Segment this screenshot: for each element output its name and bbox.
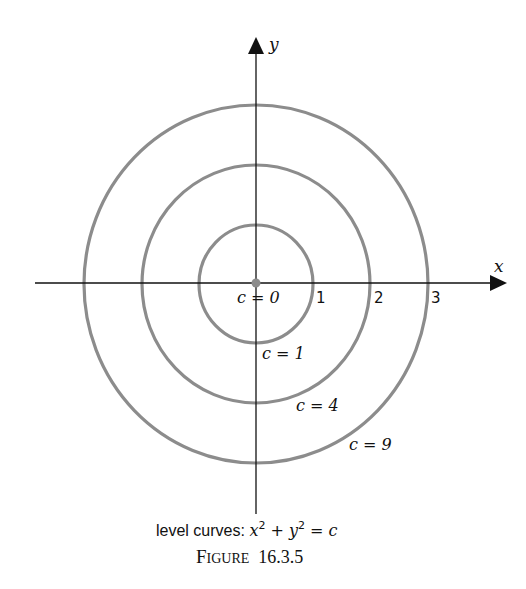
x-tick-3: 3 bbox=[431, 289, 441, 307]
subtitle-y-exponent: 2 bbox=[298, 519, 305, 532]
y-axis-label: y bbox=[268, 34, 279, 54]
subtitle-plus: + bbox=[265, 521, 289, 540]
subtitle-prefix: level curves: bbox=[156, 522, 249, 539]
figure-subtitle: level curves: x2 + y2 = c bbox=[156, 519, 338, 540]
axes bbox=[35, 37, 507, 514]
subtitle-x: x bbox=[249, 521, 258, 540]
subtitle-equals: = bbox=[305, 521, 329, 540]
subtitle-c: c bbox=[329, 521, 338, 540]
curve-label-c4: c = 4 bbox=[296, 396, 339, 415]
caption-initial: F bbox=[196, 546, 207, 567]
x-tick-2: 2 bbox=[374, 289, 384, 307]
y-axis-arrow-icon bbox=[248, 37, 264, 54]
x-axis-arrow-icon bbox=[490, 275, 507, 291]
curve-label-c0: c = 0 bbox=[237, 288, 280, 307]
level-curves-figure: y x 1 2 3 c = 0 c = 1 c = 4 c = 9 level … bbox=[0, 0, 526, 589]
figure-caption: FIGURE16.3.5 bbox=[196, 546, 303, 567]
curve-label-c1: c = 1 bbox=[262, 344, 305, 363]
caption-smallcaps: IGURE bbox=[207, 551, 250, 566]
curve-label-c9: c = 9 bbox=[349, 435, 392, 454]
subtitle-x-exponent: 2 bbox=[258, 519, 265, 532]
x-axis-label: x bbox=[494, 256, 504, 276]
caption-number: 16.3.5 bbox=[258, 547, 303, 567]
origin-point bbox=[252, 279, 261, 288]
x-tick-1: 1 bbox=[316, 289, 326, 307]
